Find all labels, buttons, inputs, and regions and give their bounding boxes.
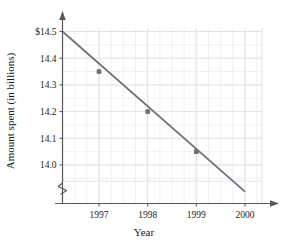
data-point-marker [145, 109, 150, 114]
x-tick-label: 1998 [138, 210, 157, 220]
x-tick-label: 2000 [235, 210, 254, 220]
x-tick-label: 1997 [89, 210, 108, 220]
line-chart: $14.514.414.314.214.114.0 19971998199920… [0, 0, 288, 241]
grid-major [63, 28, 263, 204]
chart-canvas: $14.514.414.314.214.114.0 19971998199920… [0, 0, 288, 241]
y-tick-label: 14.1 [40, 134, 57, 144]
arrow-right-icon [270, 200, 279, 207]
y-tick-label: 14.4 [40, 54, 57, 64]
x-tick-label: 1999 [187, 210, 206, 220]
y-axis-title: Amount spent (in billions) [4, 52, 17, 169]
y-tick-labels: $14.514.414.314.214.114.0 [35, 27, 57, 170]
data-point-marker [194, 149, 199, 154]
y-tick-label: 14.2 [40, 107, 57, 117]
grid-minor [63, 28, 263, 204]
x-tick-labels: 1997199819992000 [89, 210, 254, 220]
y-tick-label: 14.3 [40, 80, 57, 90]
y-axis [59, 11, 66, 204]
arrow-up-icon [59, 11, 66, 20]
y-tick-label: $14.5 [35, 27, 57, 37]
x-axis-title: Year [134, 226, 155, 238]
data-point-marker [97, 69, 102, 74]
y-tick-label: 14.0 [40, 160, 57, 170]
